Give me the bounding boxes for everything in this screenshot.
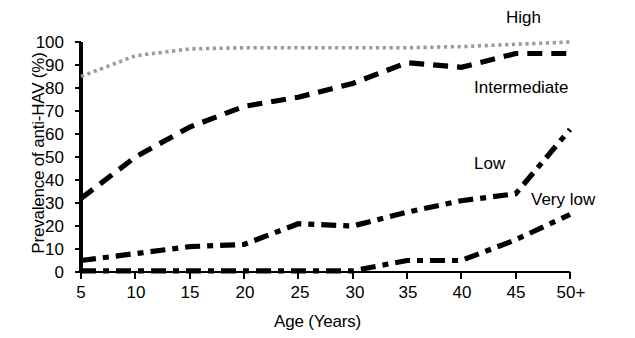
series-label-verylow: Very low — [531, 190, 595, 210]
x-tick-label-50plus: 50+ — [541, 283, 601, 303]
x-tick-label-15: 15 — [160, 283, 220, 303]
series-label-high: High — [506, 8, 541, 28]
x-tick-label-30: 30 — [325, 283, 385, 303]
x-tick-label-25: 25 — [270, 283, 330, 303]
x-tick-label-5: 5 — [51, 283, 111, 303]
series-label-intermediate: Intermediate — [474, 78, 569, 98]
x-tick-label-45: 45 — [486, 283, 546, 303]
x-tick-label-10: 10 — [106, 283, 166, 303]
x-axis-title: Age (Years) — [0, 312, 635, 332]
x-tick-label-35: 35 — [378, 283, 438, 303]
series-label-low: Low — [474, 154, 505, 174]
x-tick-label-20: 20 — [215, 283, 275, 303]
chart-figure: 100 90 80 70 60 50 40 30 20 10 0 5 10 15… — [0, 0, 635, 338]
y-axis-title: Prevalence of anti-HAV (%) — [29, 22, 49, 284]
x-tick-label-40: 40 — [432, 283, 492, 303]
